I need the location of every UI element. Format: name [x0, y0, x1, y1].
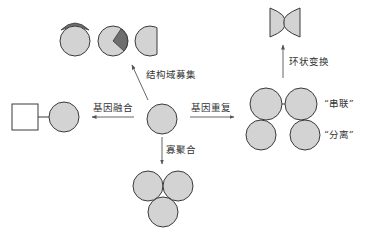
domain-circle — [246, 120, 276, 150]
separate-label: “分离” — [324, 129, 354, 140]
subunit-circle — [133, 171, 163, 201]
truncated-domain-variant — [135, 26, 165, 56]
oligomerization-label: 寡聚合 — [166, 144, 196, 155]
truncated-domain-circle — [135, 26, 165, 56]
tandem-duplicate-pair — [250, 88, 317, 120]
domain-recruitment-label: 结构域募集 — [146, 69, 196, 80]
tandem-label: “串联” — [324, 98, 354, 109]
gene-duplication-label: 基因重复 — [191, 102, 231, 113]
gene-fusion-label: 基因融合 — [93, 102, 133, 113]
domain-circle — [290, 120, 320, 150]
ancestral-domain — [147, 104, 177, 134]
domain-circle — [60, 26, 90, 56]
permuted-left-half — [270, 8, 285, 37]
subunit-circle — [148, 197, 178, 227]
recruited-domain-cap-variant — [60, 23, 90, 56]
fused-domain — [49, 102, 79, 132]
circular-permutation-label: 环状变换 — [289, 56, 329, 67]
fused-partner-domain — [12, 104, 38, 130]
domain-circle — [285, 88, 317, 120]
domain-circle — [250, 88, 282, 120]
permuted-right-half — [284, 8, 300, 37]
recruited-domain-insert-variant — [98, 26, 128, 56]
protein-domain-evolution-diagram: 结构域募集 基因融合 基因重复 “串联” “分离” 环状变换 寡聚合 — [0, 0, 365, 238]
permuted-domain-shape — [270, 8, 300, 37]
separate-duplicate-pair — [246, 120, 320, 150]
trimer-complex — [133, 171, 193, 227]
subunit-circle — [163, 171, 193, 201]
